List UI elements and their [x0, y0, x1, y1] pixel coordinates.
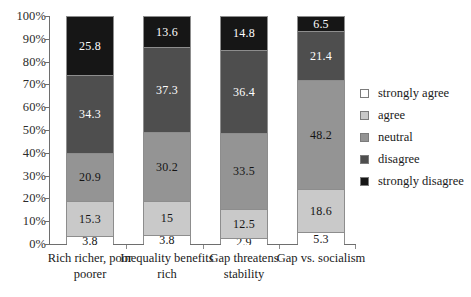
- legend-item: agree: [360, 104, 471, 126]
- legend-label: neutral: [378, 131, 413, 144]
- bar-segment-value: 21.4: [310, 50, 332, 62]
- bar-segment-value: 6.5: [313, 18, 329, 30]
- bar-segment-value: 48.2: [310, 129, 332, 141]
- bar-segment: 33.5: [221, 134, 267, 210]
- legend-label: agree: [378, 109, 405, 122]
- bar-segment: 48.2: [298, 81, 344, 191]
- bar-segment-value: 36.4: [233, 86, 255, 98]
- y-axis-tick-label: 40%: [0, 147, 46, 159]
- legend-item: neutral: [360, 126, 471, 148]
- bar-segment-value: 12.5: [233, 218, 255, 230]
- y-axis-tick-label: 0%: [0, 238, 46, 250]
- legend-label: strongly disagree: [378, 175, 464, 188]
- y-axis-tick-mark: [45, 16, 49, 17]
- x-axis-tick-mark: [126, 245, 127, 249]
- x-axis-tick-mark: [355, 245, 356, 249]
- bar-segment: 15.3: [67, 202, 113, 237]
- legend-item: disagree: [360, 148, 471, 170]
- y-axis-tick-label: 50%: [0, 124, 46, 136]
- bar-segment-value: 15: [161, 212, 173, 224]
- bar-segment: 36.4: [221, 51, 267, 134]
- bar-segment-value: 33.5: [233, 165, 255, 177]
- y-axis-tick-mark: [45, 244, 49, 245]
- bar-segment: 18.6: [298, 190, 344, 232]
- bar-segment-value: 34.3: [79, 108, 101, 120]
- y-axis-tick-mark: [45, 153, 49, 154]
- bar-segment: 6.5: [298, 17, 344, 32]
- bar-segment: 12.5: [221, 210, 267, 239]
- bar-column: 13.637.330.2153.8: [143, 16, 191, 244]
- bar-segment: 34.3: [67, 76, 113, 154]
- legend-swatch-icon: [360, 177, 369, 186]
- bar-segment: 14.8: [221, 17, 267, 51]
- y-axis-tick-mark: [45, 176, 49, 177]
- bar-segment-value: 20.9: [79, 171, 101, 183]
- y-axis-tick-label: 100%: [0, 10, 46, 22]
- y-axis-tick-mark: [45, 62, 49, 63]
- legend-item: strongly disagree: [360, 170, 471, 192]
- y-axis-tick-mark: [45, 39, 49, 40]
- y-axis-tick-label: 10%: [0, 215, 46, 227]
- bar-segment-value: 14.8: [233, 27, 255, 39]
- x-axis-tick-mark: [279, 245, 280, 249]
- bar-segment: 3.8: [67, 237, 113, 246]
- bar-segment-value: 37.3: [156, 84, 178, 96]
- bar-segment-value: 15.3: [79, 213, 101, 225]
- bar-segment-value: 25.8: [79, 40, 101, 52]
- y-axis-tick-label: 20%: [0, 192, 46, 204]
- bar-segment: 30.2: [144, 133, 190, 202]
- bar-column: 14.836.433.512.52.9: [220, 16, 268, 244]
- bar-segment: 15: [144, 202, 190, 236]
- x-axis-category-label: Gap vs. socialism: [269, 250, 373, 266]
- bar-segment: 5.3: [298, 233, 344, 245]
- bar-segment: 21.4: [298, 32, 344, 81]
- bar-segment-value: 13.6: [156, 26, 178, 38]
- stacked-bar-chart: 0%10%20%30%40%50%60%70%80%90%100% 25.834…: [0, 0, 471, 297]
- bar-segment-value: 2.9: [236, 239, 252, 246]
- bar-segment-value: 3.8: [159, 236, 175, 245]
- y-axis-tick-mark: [45, 198, 49, 199]
- bar-segment-value: 5.3: [313, 233, 329, 245]
- legend-swatch-icon: [360, 111, 369, 120]
- y-axis-tick-label: 60%: [0, 101, 46, 113]
- y-axis-tick-label: 30%: [0, 170, 46, 182]
- bar-column: 6.521.448.218.65.3: [297, 16, 345, 244]
- legend-swatch-icon: [360, 155, 369, 164]
- bar-segment-value: 18.6: [310, 205, 332, 217]
- legend-swatch-icon: [360, 133, 369, 142]
- y-axis-tick-mark: [45, 107, 49, 108]
- bar-segment-value: 30.2: [156, 161, 178, 173]
- bar-segment: 3.8: [144, 236, 190, 245]
- x-axis-tick-mark: [203, 245, 204, 249]
- y-axis-tick-mark: [45, 221, 49, 222]
- bar-column: 25.834.320.915.33.8: [66, 16, 114, 244]
- bar-segment: 2.9: [221, 239, 267, 246]
- y-axis-tick-mark: [45, 84, 49, 85]
- legend-label: strongly agree: [378, 87, 449, 100]
- y-axis-tick-label: 70%: [0, 78, 46, 90]
- plot-area: 25.834.320.915.33.813.637.330.2153.814.8…: [49, 16, 356, 244]
- y-axis-tick-mark: [45, 130, 49, 131]
- y-axis-tick-label: 80%: [0, 56, 46, 68]
- bar-segment: 37.3: [144, 48, 190, 133]
- legend-label: disagree: [378, 153, 420, 166]
- bar-segment: 25.8: [67, 17, 113, 76]
- y-axis-tick-label: 90%: [0, 33, 46, 45]
- bar-segment: 20.9: [67, 154, 113, 202]
- legend-swatch-icon: [360, 89, 369, 98]
- legend-item: strongly agree: [360, 82, 471, 104]
- bar-segment-value: 3.8: [82, 237, 98, 246]
- bar-segment: 13.6: [144, 17, 190, 48]
- chart-legend: strongly agreeagreeneutraldisagreestrong…: [360, 82, 471, 192]
